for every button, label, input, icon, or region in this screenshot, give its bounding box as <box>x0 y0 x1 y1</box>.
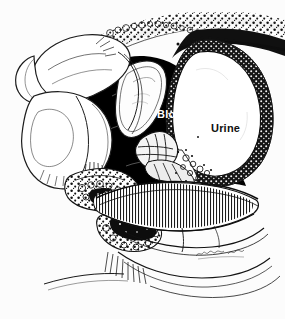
anatomy-drawing <box>0 0 285 319</box>
medical-illustration-figure: Blood Urine <box>0 0 285 319</box>
